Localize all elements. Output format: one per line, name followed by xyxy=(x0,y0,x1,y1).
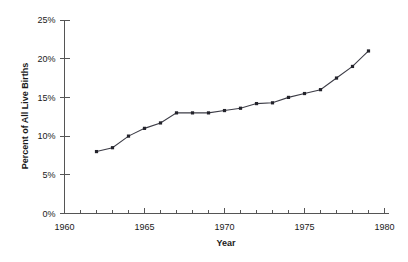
x-axis: 19601965197019751980 xyxy=(54,208,394,232)
data-point xyxy=(159,121,162,124)
y-tick-label: 15% xyxy=(37,93,55,103)
data-point xyxy=(95,150,98,153)
x-tick-label: 1970 xyxy=(214,222,234,232)
data-point xyxy=(351,65,354,68)
y-tick-label: 25% xyxy=(37,15,55,25)
line-chart: 0%5%10%15%20%25% 19601965197019751980 Ye… xyxy=(0,0,408,262)
data-point xyxy=(319,88,322,91)
data-point xyxy=(223,109,226,112)
data-point xyxy=(127,135,130,138)
x-tick-label: 1965 xyxy=(134,222,154,232)
data-point xyxy=(335,76,338,79)
x-tick-label: 1975 xyxy=(294,222,314,232)
data-point xyxy=(143,127,146,130)
series-line xyxy=(97,51,369,152)
y-tick-label: 20% xyxy=(37,54,55,64)
data-point xyxy=(191,111,194,114)
y-tick-label: 5% xyxy=(42,170,55,180)
data-point xyxy=(111,146,114,149)
series-markers xyxy=(95,49,370,153)
x-axis-title: Year xyxy=(216,238,236,248)
data-point xyxy=(175,111,178,114)
y-axis-title: Percent of All Live Births xyxy=(20,63,30,170)
y-axis: 0%5%10%15%20%25% xyxy=(37,15,69,219)
x-tick-group: 19601965197019751980 xyxy=(54,208,394,232)
chart-canvas: 0%5%10%15%20%25% 19601965197019751980 Ye… xyxy=(0,0,408,262)
data-point xyxy=(303,92,306,95)
data-point xyxy=(207,111,210,114)
data-point xyxy=(239,107,242,110)
data-series xyxy=(95,49,370,153)
y-tick-label: 0% xyxy=(42,209,55,219)
data-point xyxy=(271,101,274,104)
x-tick-label: 1980 xyxy=(374,222,394,232)
data-point xyxy=(255,102,258,105)
x-tick-label: 1960 xyxy=(54,222,74,232)
data-point xyxy=(287,96,290,99)
y-tick-label: 10% xyxy=(37,131,55,141)
data-point xyxy=(367,49,370,52)
